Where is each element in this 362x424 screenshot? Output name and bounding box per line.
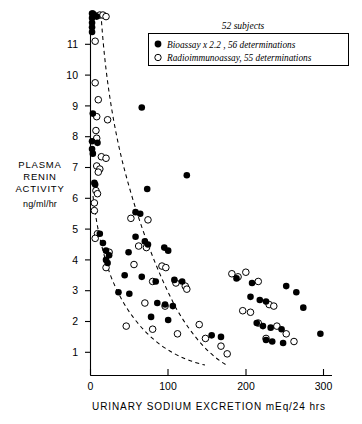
y-tick-label: 4 [72, 254, 78, 266]
data-point [123, 323, 130, 330]
data-point [239, 307, 246, 314]
x-tick-label: 300 [315, 380, 333, 392]
data-point [90, 110, 97, 117]
data-point [255, 278, 262, 285]
subjects-count-label: 52 subjects [222, 21, 265, 31]
renin-sodium-scatter-figure: 11 10 9 8 7 6 [0, 0, 362, 424]
y-tick-label: 1 [72, 346, 78, 358]
y-tick-8: 8 [72, 130, 90, 142]
legend-entry-bioassay: Bioassay x 2.2 , 56 determinations [155, 40, 296, 50]
x-tick-200: 200 [237, 369, 255, 392]
data-point [233, 275, 240, 282]
y-tick-2: 2 [72, 315, 90, 327]
data-point [144, 186, 151, 193]
y-tick-5: 5 [72, 223, 90, 235]
data-point [93, 13, 100, 20]
data-point [95, 169, 102, 176]
x-tick-label: 0 [88, 380, 94, 392]
y-axis-title-line-1: PLASMA [18, 159, 61, 170]
data-point [131, 261, 138, 268]
data-point [126, 290, 133, 297]
legend-label-radioimmunoassay: Radioimmunoassay, 55 determinations [166, 53, 312, 63]
y-tick-label: 7 [72, 161, 78, 173]
data-point [291, 338, 298, 345]
data-point [218, 343, 225, 350]
y-tick-4: 4 [72, 254, 90, 266]
data-point [184, 286, 191, 293]
data-point [249, 280, 256, 287]
x-tick-label: 200 [237, 380, 255, 392]
data-point [125, 249, 132, 256]
y-tick-label: 6 [72, 192, 78, 204]
upper-envelope-curve [101, 14, 228, 366]
data-point [142, 300, 149, 307]
data-point [196, 321, 203, 328]
data-point [184, 172, 191, 179]
data-point [135, 243, 142, 250]
y-tick-label: 5 [72, 223, 78, 235]
y-tick-11: 11 [67, 38, 90, 50]
data-point [92, 80, 99, 87]
open-circle-marker-icon [155, 54, 161, 60]
data-point [149, 326, 156, 333]
data-point [267, 324, 274, 331]
y-axis-title: PLASMA RENIN ACTIVITY ng/ml/hr [15, 159, 64, 209]
legend-entry-radioimmunoassay: Radioimmunoassay, 55 determinations [155, 53, 312, 63]
y-tick-10: 10 [66, 69, 90, 81]
data-point [317, 331, 324, 338]
y-axis-ticks: 11 10 9 8 7 6 [66, 38, 90, 358]
data-point [300, 304, 307, 311]
data-point [128, 215, 135, 222]
data-point [94, 190, 101, 197]
data-point [103, 155, 110, 162]
y-axis-title-line-2: RENIN [23, 171, 57, 182]
data-point [247, 309, 254, 316]
data-point [138, 104, 145, 111]
data-point [269, 338, 276, 345]
y-axis-title-line-3: ACTIVITY [15, 183, 64, 194]
x-tick-300: 300 [315, 369, 333, 392]
x-tick-100: 100 [159, 369, 177, 392]
filled-circle-marker-icon [155, 41, 162, 48]
data-point [280, 340, 287, 347]
data-point [283, 283, 290, 290]
y-tick-9: 9 [72, 100, 90, 112]
y-tick-label: 2 [72, 315, 78, 327]
data-point [257, 297, 264, 304]
data-point [121, 272, 128, 279]
data-point [132, 234, 139, 241]
data-point [171, 277, 178, 284]
data-point [100, 240, 107, 247]
data-point [179, 278, 186, 285]
data-point [174, 331, 181, 338]
y-tick-label: 11 [67, 38, 78, 50]
data-point [115, 289, 122, 296]
data-point [218, 334, 225, 341]
envelope-curves [93, 14, 228, 366]
data-point [93, 127, 100, 134]
data-point [148, 314, 155, 321]
data-point [263, 298, 270, 305]
data-point [154, 300, 161, 307]
data-point [224, 351, 231, 358]
data-point [91, 200, 98, 207]
data-point [162, 301, 169, 308]
data-point [202, 335, 209, 342]
data-point [253, 320, 260, 327]
data-point [247, 294, 254, 301]
data-point [145, 217, 152, 224]
data-point [170, 303, 177, 310]
data-point [145, 241, 152, 248]
y-tick-label: 10 [66, 69, 78, 81]
data-point [97, 230, 104, 237]
data-point [91, 207, 98, 214]
data-point [104, 260, 111, 267]
y-tick-1: 1 [72, 346, 90, 358]
y-tick-label: 3 [72, 284, 78, 296]
data-point [90, 150, 97, 157]
y-axis-units: ng/ml/hr [23, 199, 57, 209]
x-tick-0: 0 [88, 369, 94, 392]
data-point [89, 29, 96, 36]
data-point [165, 317, 172, 324]
data-point [263, 337, 270, 344]
